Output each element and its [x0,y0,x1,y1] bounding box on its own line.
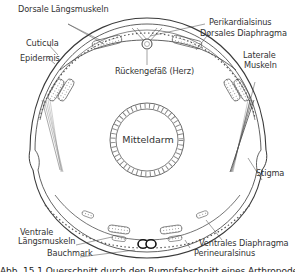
label-midgut: Mitteldarm [118,134,178,145]
lateral-muscles-right [223,78,254,172]
insect-cross-section-diagram: Dorsale Längsmuskeln Cuticula Epidermis … [0,0,295,272]
label-lateral-muscles-line1: Laterale [243,51,276,60]
ventral-longitudinal-muscles [81,210,208,242]
dorsal-vessel-heart [132,28,162,49]
figure-caption: Abb. 15.1 Querschnitt durch den Rumpfabs… [0,264,295,272]
label-perineural-sinus: Perineuralsinus [194,249,255,258]
ventral-nerve-cord [138,240,156,248]
label-pericardial-sinus: Perikardialsinus [209,18,272,27]
label-dorsal-vessel-heart: Rückengefäß (Herz) [115,67,194,76]
label-ventral-diaphragm: Ventrales Diaphragma [199,239,289,248]
label-epidermis: Epidermis [20,54,60,63]
label-dorsal-diaphragm: Dorsales Diaphragma [200,29,287,38]
label-stigma: Stigma [256,169,284,178]
label-dorsal-longitudinal-muscles: Dorsale Längsmuskeln [18,5,109,14]
label-lateral-muscles-line2: Muskeln [244,61,277,70]
label-ventral-longitudinal-muscles-line2: Längsmuskeln [18,237,75,246]
label-cuticula: Cuticula [26,39,59,48]
label-ventral-nerve-cord: Bauchmark [47,249,93,258]
